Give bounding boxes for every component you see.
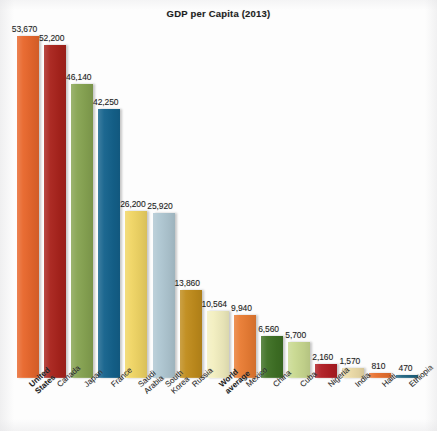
bar-value-label: 25,920: [147, 201, 172, 211]
bar-value-label: 53,670: [12, 24, 37, 34]
bar-china[interactable]: [261, 0, 283, 378]
bar-rect: [98, 109, 120, 378]
bar-rect: [44, 45, 66, 378]
bar-value-label: 13,860: [174, 278, 199, 288]
bar-value-label: 5,700: [285, 330, 306, 340]
bar-russia[interactable]: [180, 0, 202, 378]
bar-value-label: 470: [399, 363, 413, 373]
bar-rect: [17, 36, 39, 378]
bar-sheen: [44, 45, 66, 378]
bar-ethiopia[interactable]: [396, 0, 418, 378]
category-axis-labels: UnitedStatesCanadaJapanFranceSaudiArabia…: [0, 379, 437, 431]
bar-sheen: [17, 36, 39, 378]
bar-cuba[interactable]: [288, 0, 310, 378]
bar-value-label: 810: [371, 361, 385, 371]
bar-nigeria[interactable]: [315, 0, 337, 378]
bar-sheen: [153, 213, 175, 378]
bar-sheen: [125, 211, 147, 378]
bar-japan[interactable]: [71, 0, 93, 378]
plot-area: 53,67052,20046,14042,25026,20025,92013,8…: [0, 0, 437, 379]
bar-rect: [71, 84, 93, 378]
bar-value-label: 1,570: [339, 356, 360, 366]
bar-value-label: 46,140: [66, 72, 91, 82]
bar-value-label: 2,160: [312, 352, 333, 362]
bar-value-label: 9,940: [231, 303, 252, 313]
bar-south-korea[interactable]: [153, 0, 175, 378]
bar-india[interactable]: [342, 0, 364, 378]
bar-saudi-arabia[interactable]: [125, 0, 147, 378]
bar-canada[interactable]: [44, 0, 66, 378]
bar-value-label: 52,200: [39, 33, 64, 43]
bar-world-average[interactable]: [207, 0, 229, 378]
bar-rect: [125, 211, 147, 378]
bar-value-label: 26,200: [120, 199, 145, 209]
bar-mexico[interactable]: [234, 0, 256, 378]
bar-sheen: [71, 84, 93, 378]
bar-value-label: 42,250: [93, 97, 118, 107]
bar-value-label: 6,560: [258, 324, 279, 334]
bar-france[interactable]: [98, 0, 120, 378]
bar-haiti[interactable]: [369, 0, 391, 378]
bar-rect: [180, 290, 202, 378]
gdp-per-capita-chart: GDP per Capita (2013) 53,67052,20046,140…: [0, 0, 437, 431]
bar-united-states[interactable]: [17, 0, 39, 378]
bar-sheen: [98, 109, 120, 378]
bar-rect: [153, 213, 175, 378]
bar-value-label: 10,564: [202, 299, 227, 309]
bar-sheen: [180, 290, 202, 378]
